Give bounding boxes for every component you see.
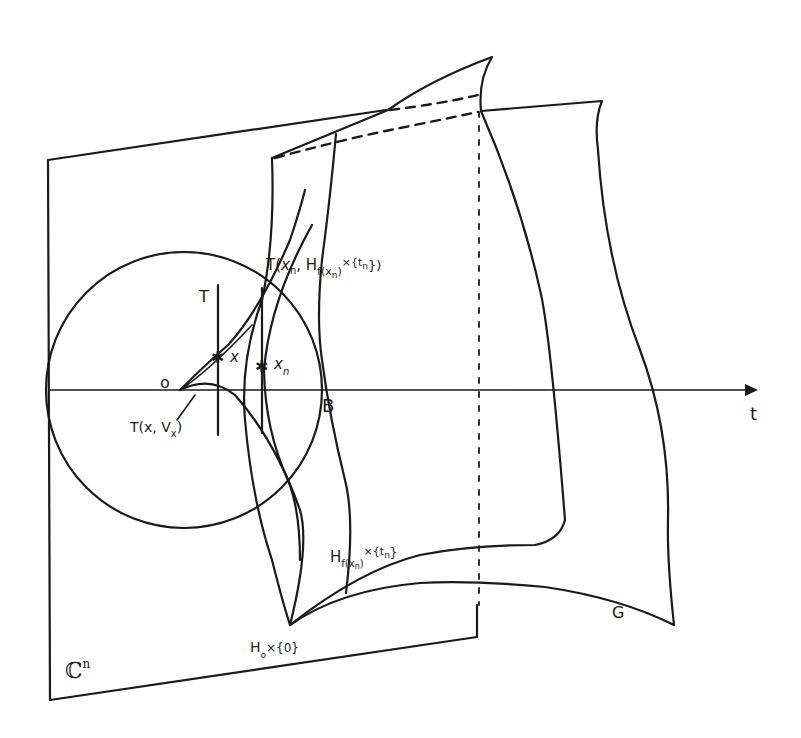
label-tangent-vx: T(x, Vx) — [129, 419, 182, 439]
point-xn-marker: ✱ — [255, 357, 268, 376]
label-tangent-right: T(xn, Hf(xn)×{tn}) — [265, 256, 381, 280]
label-surface-g: G — [612, 603, 624, 622]
dashed-edge-upper — [390, 95, 478, 110]
label-plane-cn: ℂn — [65, 657, 91, 683]
diagram-canvas: ✱ ✱ ℂn o B t T T(xn, Hf(xn)×{tn}) x xn T… — [0, 0, 801, 738]
surface-h-fxn — [272, 57, 565, 625]
curve-lower-from-origin — [180, 384, 303, 625]
label-axis-t: t — [750, 403, 757, 424]
label-point-xn: xn — [273, 355, 289, 377]
surface-h0 — [244, 158, 290, 625]
curve-through-xn — [264, 225, 312, 560]
axis-arrow-icon — [745, 384, 758, 396]
label-tangent-left: T — [198, 287, 209, 306]
label-surface-h-fxn: Hf(xn)×{tn} — [330, 545, 398, 571]
tangent-vx-pointer — [177, 395, 195, 420]
point-x-marker: ✱ — [211, 348, 224, 367]
label-origin: o — [160, 373, 170, 392]
dashed-edge-lower — [275, 112, 478, 158]
label-ball-b: B — [322, 395, 334, 416]
label-point-x: x — [229, 348, 239, 366]
label-surface-h0: Ho×{0} — [250, 639, 299, 660]
